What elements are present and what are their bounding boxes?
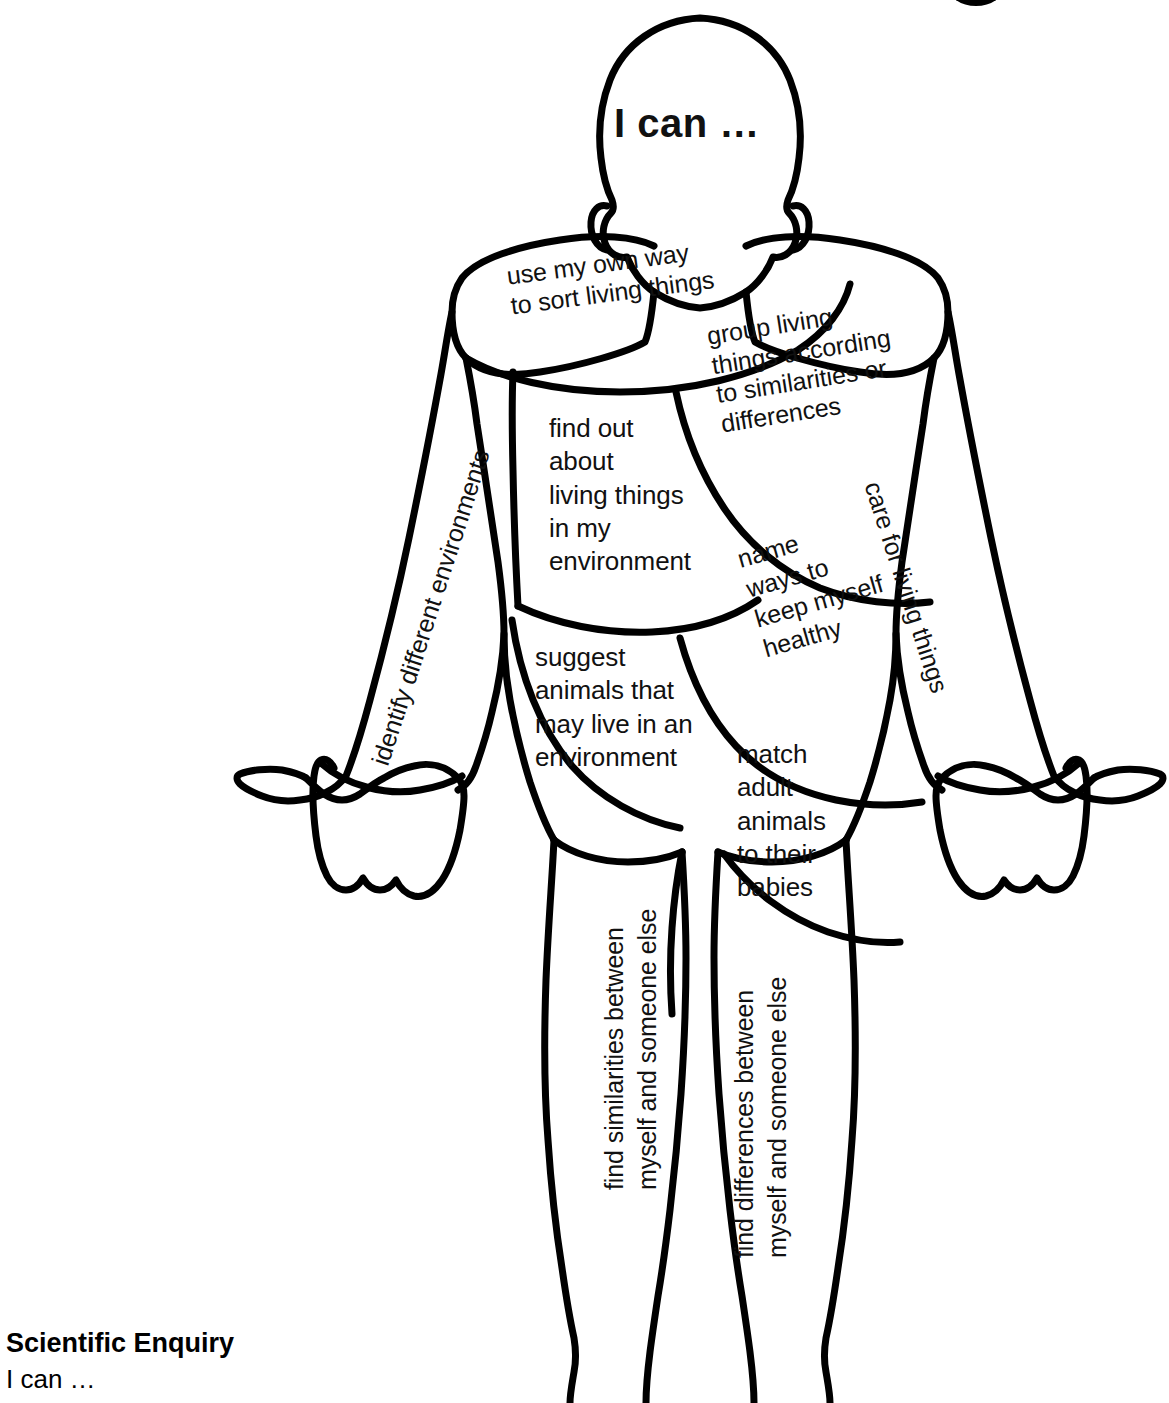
leg-left-outer: [545, 840, 576, 1403]
hand-left: [306, 759, 464, 896]
label-leg-left-find-similarities: find similarities between myself and som…: [598, 909, 663, 1190]
footer-subtitle: I can …: [6, 1362, 234, 1397]
leg-right-outer: [825, 840, 856, 1403]
footer-title: Scientific Enquiry: [6, 1325, 234, 1361]
worksheet-page: I can … use my own way to sort living th…: [0, 0, 1169, 1403]
arm-left-outer: [237, 312, 452, 801]
divider-chest-left-vertical: [512, 372, 518, 606]
hand-right: [936, 759, 1094, 896]
torso-side-right: [846, 634, 896, 840]
hip-left: [554, 840, 682, 862]
arm-right-outer: [948, 312, 1163, 801]
arm-left-inner: [458, 358, 504, 790]
divider-find-out-bottom: [518, 600, 758, 632]
footer-block: Scientific Enquiry I can …: [6, 1325, 234, 1397]
head-label-i-can: I can …: [614, 100, 760, 147]
label-abdomen-left-suggest-animals: suggest animals that may live in an envi…: [535, 641, 693, 774]
label-torso-left-find-out: find out about living things in my envir…: [549, 412, 691, 578]
crotch-line: [671, 852, 683, 1014]
label-abdomen-right-match-adult: match adult animals to their babies: [737, 738, 826, 904]
label-leg-right-find-differences: find differences between myself and some…: [728, 977, 793, 1258]
